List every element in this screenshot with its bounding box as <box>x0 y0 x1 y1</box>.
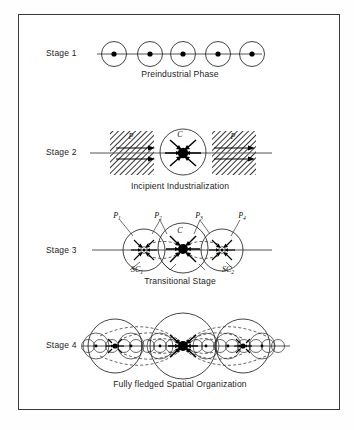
stage-4-center-dot <box>178 341 188 351</box>
stage-4-diagram <box>0 0 354 430</box>
figure-page: Stage 1 Preindustrial Phase Stage 2 Inci… <box>0 0 354 430</box>
